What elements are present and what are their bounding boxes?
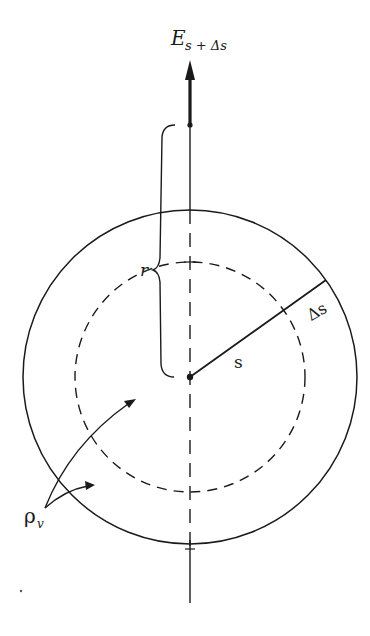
- gauss-sphere-diagram: E s + Δs r s Δs ρ v: [0, 0, 370, 636]
- label-delta-s: Δs: [304, 298, 331, 324]
- stray-dot: [20, 590, 22, 592]
- rho-arrow-upper: [45, 404, 128, 508]
- brace-r: [153, 125, 175, 377]
- rho-arrow-upper-head: [124, 399, 136, 408]
- label-s: s: [234, 352, 243, 372]
- field-point-dot: [187, 122, 192, 127]
- radius-line: [190, 280, 326, 377]
- label-field-subscript: s + Δs: [185, 38, 227, 53]
- rho-arrow-lower-head: [85, 481, 95, 490]
- field-arrow-head: [185, 60, 195, 80]
- label-r: r: [140, 260, 149, 280]
- label-field-E: E: [170, 26, 186, 50]
- label-rho-subscript: v: [37, 517, 44, 531]
- label-rho: ρ: [24, 504, 36, 528]
